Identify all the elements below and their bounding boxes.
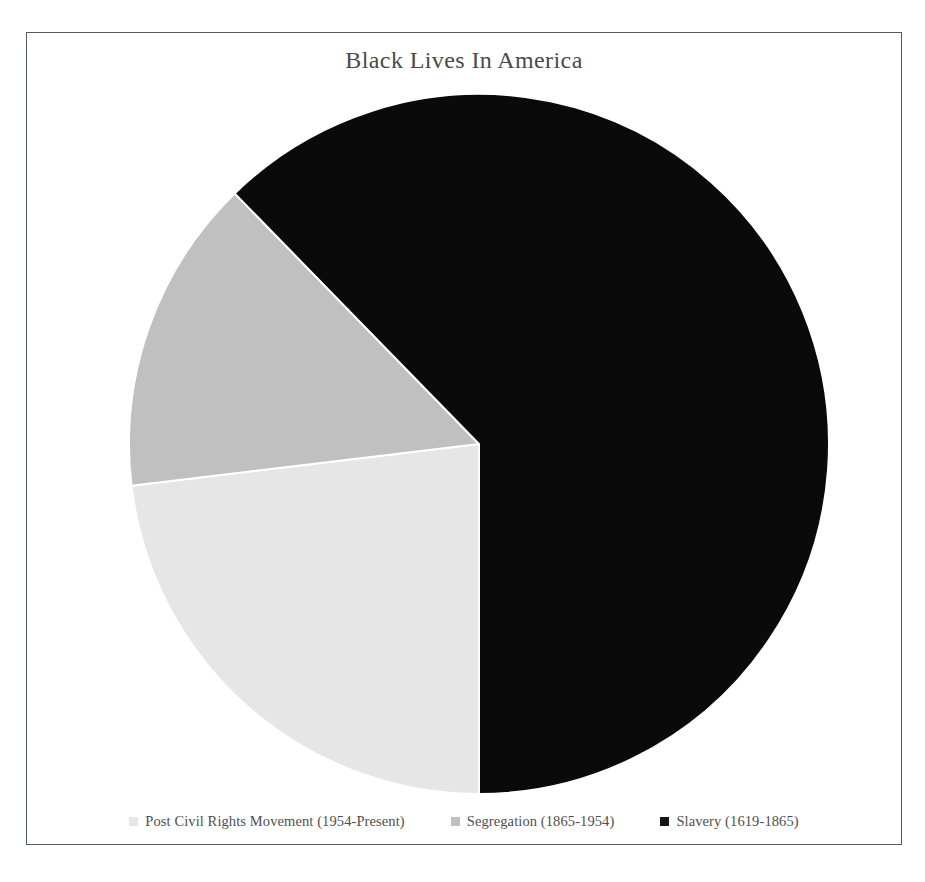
- chart-legend: Post Civil Rights Movement (1954-Present…: [27, 813, 901, 830]
- pie-slice[interactable]: [131, 444, 479, 794]
- legend-item-slavery[interactable]: Slavery (1619-1865): [660, 813, 798, 830]
- legend-swatch-slavery: [660, 817, 669, 826]
- pie-slice-group: [129, 94, 829, 794]
- legend-label-post-civil-rights: Post Civil Rights Movement (1954-Present…: [145, 813, 404, 830]
- legend-swatch-post-civil-rights: [129, 817, 138, 826]
- legend-label-slavery: Slavery (1619-1865): [676, 813, 798, 830]
- legend-swatch-segregation: [451, 817, 460, 826]
- pie-chart-area: [27, 33, 902, 845]
- legend-item-segregation[interactable]: Segregation (1865-1954): [451, 813, 615, 830]
- legend-item-post-civil-rights[interactable]: Post Civil Rights Movement (1954-Present…: [129, 813, 404, 830]
- chart-frame: Black Lives In America Post Civil Rights…: [26, 32, 902, 845]
- legend-label-segregation: Segregation (1865-1954): [467, 813, 615, 830]
- pie-chart-svg: [27, 33, 902, 845]
